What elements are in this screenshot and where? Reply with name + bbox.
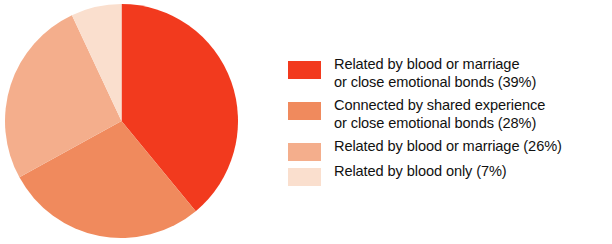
pie-chart-figure: Related by blood or marriage or close em… xyxy=(0,0,612,244)
pie-chart-svg xyxy=(5,4,238,238)
legend-item: Connected by shared experience or close … xyxy=(288,97,608,132)
legend-item: Related by blood or marriage (26%) xyxy=(288,138,608,161)
pie-slice-group xyxy=(5,4,238,238)
legend-label: Related by blood only (7%) xyxy=(334,163,507,181)
legend-label: Related by blood or marriage (26%) xyxy=(334,138,562,156)
legend-swatch-connected-shared-experience xyxy=(288,102,321,120)
legend-swatch-related-blood-marriage xyxy=(288,143,321,161)
legend-label: Connected by shared experience or close … xyxy=(334,97,545,132)
chart-legend: Related by blood or marriage or close em… xyxy=(288,56,608,188)
legend-item: Related by blood or marriage or close em… xyxy=(288,56,608,91)
legend-item: Related by blood only (7%) xyxy=(288,163,608,186)
legend-label: Related by blood or marriage or close em… xyxy=(334,56,536,91)
legend-swatch-related-blood-only xyxy=(288,168,321,186)
pie-chart xyxy=(5,4,238,238)
legend-swatch-related-blood-marriage-emotional xyxy=(288,61,321,79)
